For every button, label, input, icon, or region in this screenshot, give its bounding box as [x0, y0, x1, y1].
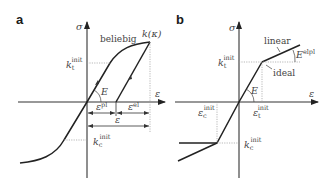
epsilon-axis-label: ε [155, 88, 160, 99]
sigma-axis-label: σ [76, 21, 83, 32]
modulus-E-label: E [250, 85, 258, 96]
panel-b: b σ ε linear ideal Eelpl E ktinit [175, 12, 318, 178]
peak-k-kappa-label: k(κ) [142, 28, 162, 39]
linear-hardening-compression [178, 143, 217, 161]
panel-a-label: a [16, 12, 24, 27]
sigma-axis-label: σ [229, 22, 236, 33]
hardening-angle-arc [293, 50, 295, 62]
kt-init-label: ktinit [66, 56, 83, 72]
eps-el-label: εel [128, 101, 139, 112]
panel-a: a σ ε ktinit kcinit beliebig k(κ) E εpl … [16, 12, 165, 178]
linear-leader [277, 47, 280, 52]
ideal-leader [266, 65, 272, 69]
eps-pl-label: εpl [96, 101, 107, 112]
E-elpl-label: Eelpl [295, 48, 315, 60]
panel-b-label: b [176, 12, 184, 27]
beliebig-label: beliebig [100, 34, 137, 44]
kc-init-label: kcinit [244, 136, 262, 152]
stress-strain-figure: a σ ε ktinit kcinit beliebig k(κ) E εpl … [0, 0, 333, 187]
eps-c-init-label: εcinit [198, 104, 215, 120]
kt-init-label: ktinit [218, 54, 235, 70]
ideal-label: ideal [273, 68, 295, 78]
kc-init-label: kcinit [93, 133, 111, 149]
modulus-E-label: E [100, 86, 108, 97]
eps-t-init-label: εtinit [253, 104, 269, 120]
linear-label: linear [264, 36, 291, 46]
eps-total-label: ε [115, 114, 120, 125]
loading-arrow-icon [95, 80, 99, 85]
epsilon-axis-label: ε [309, 88, 314, 99]
